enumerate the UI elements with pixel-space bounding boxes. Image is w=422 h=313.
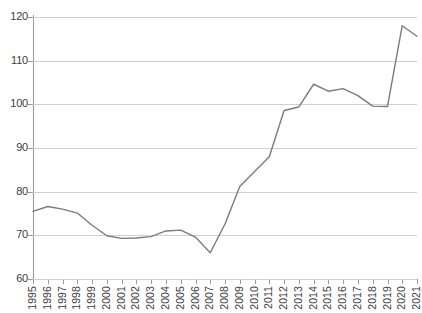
y-tick-label-120: 120 — [2, 11, 28, 22]
y-tick-label-90: 90 — [2, 142, 28, 153]
x-tick-label-2013: 2013 — [293, 286, 304, 310]
x-tick-label-2018: 2018 — [367, 286, 378, 310]
x-tick-label-2009: 2009 — [234, 286, 245, 310]
x-tick-mark-2010 — [255, 280, 256, 284]
x-tick-label-2006: 2006 — [190, 286, 201, 310]
x-tick-label-2000: 2000 — [101, 286, 112, 310]
x-tick-label-2021: 2021 — [411, 286, 422, 310]
x-tick-label-1996: 1996 — [42, 286, 53, 310]
x-tick-mark-2005 — [181, 280, 182, 284]
x-tick-label-2017: 2017 — [352, 286, 363, 310]
x-tick-label-2008: 2008 — [219, 286, 230, 310]
y-tick-mark-110 — [28, 61, 33, 62]
y-tick-label-70: 70 — [2, 229, 28, 240]
y-tick-mark-60 — [28, 279, 33, 280]
x-tick-mark-2017 — [358, 280, 359, 284]
y-tick-label-110: 110 — [2, 55, 28, 66]
x-tick-label-2011: 2011 — [263, 286, 274, 309]
y-tick-mark-90 — [28, 148, 33, 149]
y-tick-label-80: 80 — [2, 186, 28, 197]
x-tick-mark-2007 — [210, 280, 211, 284]
x-tick-label-2005: 2005 — [175, 286, 186, 310]
plot-area — [33, 17, 417, 279]
x-tick-mark-1997 — [63, 280, 64, 284]
x-tick-mark-2019 — [388, 280, 389, 284]
y-tick-mark-120 — [28, 17, 33, 18]
x-tick-mark-2002 — [136, 280, 137, 284]
x-tick-label-2003: 2003 — [145, 286, 156, 310]
x-tick-mark-2004 — [166, 280, 167, 284]
x-tick-label-2004: 2004 — [160, 286, 171, 310]
x-tick-mark-2012 — [284, 280, 285, 284]
x-tick-mark-2013 — [299, 280, 300, 284]
x-tick-mark-2008 — [225, 280, 226, 284]
x-tick-mark-2015 — [328, 280, 329, 284]
y-axis: 60708090100110120 — [0, 0, 28, 313]
y-tick-mark-100 — [28, 104, 33, 105]
y-tick-label-100: 100 — [2, 98, 28, 109]
x-tick-mark-2000 — [107, 280, 108, 284]
x-tick-mark-1995 — [33, 280, 34, 284]
x-tick-label-2019: 2019 — [382, 286, 393, 310]
x-tick-label-2016: 2016 — [337, 286, 348, 310]
x-tick-mark-2009 — [240, 280, 241, 284]
x-tick-label-1999: 1999 — [86, 286, 97, 310]
x-tick-mark-2006 — [196, 280, 197, 284]
x-tick-label-2012: 2012 — [278, 286, 289, 310]
x-tick-mark-2011 — [269, 280, 270, 284]
x-tick-label-2002: 2002 — [130, 286, 141, 310]
x-tick-mark-2020 — [402, 280, 403, 284]
x-tick-mark-2021 — [417, 280, 418, 284]
x-tick-mark-1996 — [48, 280, 49, 284]
x-tick-mark-1998 — [77, 280, 78, 284]
x-tick-label-1997: 1997 — [57, 286, 68, 310]
x-tick-mark-2018 — [373, 280, 374, 284]
x-tick-label-2015: 2015 — [322, 286, 333, 310]
series-line-group — [33, 17, 417, 279]
x-tick-label-1998: 1998 — [71, 286, 82, 310]
x-tick-label-1995: 1995 — [27, 286, 38, 310]
x-tick-label-2001: 2001 — [116, 286, 127, 310]
x-tick-mark-2001 — [122, 280, 123, 284]
series-line — [33, 26, 417, 253]
y-tick-label-60: 60 — [2, 273, 28, 284]
x-tick-label-2020: 2020 — [396, 286, 407, 310]
x-tick-label-2014: 2014 — [308, 286, 319, 310]
x-tick-mark-2014 — [314, 280, 315, 284]
x-tick-mark-1999 — [92, 280, 93, 284]
y-tick-mark-80 — [28, 192, 33, 193]
x-tick-mark-2016 — [343, 280, 344, 284]
x-tick-label-2007: 2007 — [204, 286, 215, 310]
x-tick-mark-2003 — [151, 280, 152, 284]
x-tick-label-2010: 2010 — [249, 286, 260, 310]
y-tick-mark-70 — [28, 235, 33, 236]
